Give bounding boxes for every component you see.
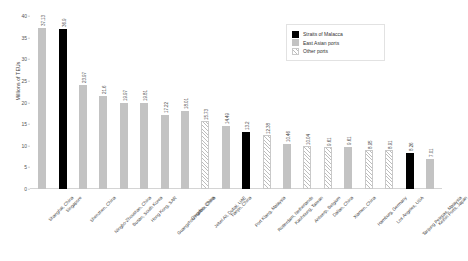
bar-value-label: 36.9 [62, 19, 67, 28]
bar: 15.73 [201, 121, 209, 189]
y-tick-label: 40 [21, 13, 27, 19]
x-label-column: Kaohsiung, Taiwan [277, 190, 297, 261]
bar-value-label: 9.61 [347, 137, 352, 146]
y-tick-label: 35 [21, 35, 27, 41]
x-label-column: Keihin Ports, Japan [420, 190, 440, 261]
y-tick-label: 30 [21, 56, 27, 62]
bar-value-label: 18.01 [184, 98, 189, 109]
legend-item-malacca: Straits of Malacca [292, 31, 379, 38]
bar-value-label: 17.22 [164, 102, 169, 113]
legend-swatch-icon-east-asian [292, 39, 299, 46]
y-tick-label: 20 [21, 100, 27, 106]
bar: 18.01 [181, 111, 189, 189]
x-label-column: Singapore [52, 190, 72, 261]
x-label-column: Jebel Ali, Dubai, UAE [195, 190, 215, 261]
legend-label-malacca: Straits of Malacca [303, 31, 343, 37]
legend-swatch-icon-malacca [292, 31, 299, 38]
bar-column: 19.97 [114, 16, 134, 189]
bar-column: 15.73 [195, 16, 215, 189]
bar-value-label: 8.26 [409, 143, 414, 152]
bar-value-label: 23.97 [82, 72, 87, 83]
bar-column: 14.49 [216, 16, 236, 189]
x-label-column: Antwerp, Belgium [297, 190, 317, 261]
bar-value-label: 7.01 [429, 148, 434, 157]
bar-column: 37.13 [32, 16, 52, 189]
bar: 8.95 [365, 150, 373, 189]
bar: 10.46 [283, 144, 291, 189]
y-tick-label: 25 [21, 78, 27, 84]
bar-column: 23.97 [73, 16, 93, 189]
y-axis-title: Millions of TEUs [15, 36, 21, 126]
legend-item-east-asian: East Asian ports [292, 39, 379, 46]
bar-column: 13.2 [236, 16, 256, 189]
bar: 19.97 [120, 103, 128, 189]
bar-column: 7.01 [420, 16, 440, 189]
bar: 23.97 [79, 85, 87, 189]
bar-value-label: 15.73 [204, 109, 209, 120]
legend-item-other: Other ports [292, 48, 379, 55]
bar-column: 12.38 [256, 16, 276, 189]
legend-label-east-asian: East Asian ports [303, 40, 339, 46]
x-label-column: Busan, South Korea [114, 190, 134, 261]
x-label-column: Los Angeles, USA [379, 190, 399, 261]
legend-swatch-icon-other [292, 48, 299, 55]
bar: 36.9 [59, 29, 67, 189]
bar-value-label: 8.95 [368, 141, 373, 150]
x-label-column: Port Klang, Malaysia [236, 190, 256, 261]
x-label-column: Shanghai, China [32, 190, 52, 261]
x-label-column: Shenzhen, China [73, 190, 93, 261]
bar-column: 21.6 [93, 16, 113, 189]
x-label-column: Tianjin, China [216, 190, 236, 261]
bar: 8.91 [385, 150, 393, 189]
bar: 9.61 [324, 147, 332, 189]
legend-label-other: Other ports [303, 48, 328, 54]
bar: 37.13 [38, 28, 46, 189]
bar: 14.49 [222, 126, 230, 189]
bar: 7.01 [426, 159, 434, 189]
bar-value-label: 19.81 [143, 90, 148, 101]
x-label-column: Hong Kong, SAR [134, 190, 154, 261]
bar-value-label: 37.13 [41, 15, 46, 26]
bar-column: 17.22 [154, 16, 174, 189]
x-label-column: Qingdao, China [175, 190, 195, 261]
bar-value-label: 12.38 [266, 123, 271, 134]
x-axis-labels: Shanghai, ChinaSingaporeShenzhen, ChinaN… [30, 190, 442, 261]
chart-legend: Straits of Malacca East Asian ports Othe… [286, 24, 385, 61]
bar-value-label: 13.2 [245, 121, 250, 130]
x-label-column: Rotterdam, Netherlands [256, 190, 276, 261]
x-label-column: Tanjung Pelepas, Malaysia [399, 190, 419, 261]
bar: 13.2 [242, 132, 250, 189]
x-label-column: Dalian, China [318, 190, 338, 261]
y-tick-label: 15 [21, 121, 27, 127]
bar-column: 19.81 [134, 16, 154, 189]
x-label-column: Xiamen, China [338, 190, 358, 261]
bar-value-label: 14.49 [225, 113, 230, 124]
bar: 10.04 [303, 146, 311, 189]
bar: 9.61 [344, 147, 352, 189]
bar-value-label: 19.97 [123, 90, 128, 101]
bar-value-label: 8.91 [388, 141, 393, 150]
bar: 21.6 [99, 96, 107, 189]
bar-value-label: 10.46 [286, 131, 291, 142]
bar: 19.81 [140, 103, 148, 189]
x-label-column: Ningbo-Zhoushan, China [93, 190, 113, 261]
bar-column: 18.01 [175, 16, 195, 189]
bar: 12.38 [263, 135, 271, 189]
bar-column: 8.26 [399, 16, 419, 189]
x-label-column: Hamburg, Germany [359, 190, 379, 261]
bar-value-label: 10.04 [306, 134, 311, 145]
bar-value-label: 9.61 [327, 138, 332, 147]
bar-value-label: 21.6 [102, 85, 107, 94]
y-tick-label: 10 [21, 143, 27, 149]
x-label-column: Guangzhou Harbor, China [154, 190, 174, 261]
bar: 8.26 [406, 153, 414, 189]
bar: 17.22 [161, 115, 169, 189]
bar-column: 36.9 [52, 16, 72, 189]
